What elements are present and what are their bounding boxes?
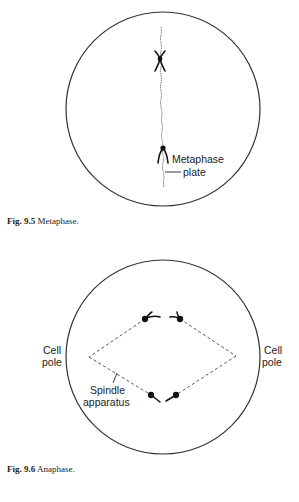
chromosome-upper-left-icon [143, 312, 160, 321]
chromosome-upper-right-icon [170, 312, 182, 321]
figure-number: Fig. 9.6 [7, 464, 35, 474]
spindle-label-1: Spindle [90, 384, 125, 396]
right-cell-pole-label-1: Cell [264, 344, 282, 356]
figure-caption-9-6: Fig. 9.6 Anaphase. [7, 464, 75, 474]
spindle-label-2: apparatus [83, 396, 130, 408]
spindle-leader [113, 373, 117, 383]
cell-membrane [66, 260, 260, 454]
chromosome-lower-right-icon [166, 393, 178, 401]
left-cell-pole-label-1: Cell [43, 344, 61, 356]
anaphase-diagram: Cell pole Cell pole Spindle apparatus [0, 0, 299, 502]
figure-title: Anaphase. [37, 464, 75, 474]
chromosome-lower-left-icon [149, 393, 160, 402]
left-cell-pole-label-2: pole [42, 356, 62, 368]
right-cell-pole-label-2: pole [262, 356, 282, 368]
